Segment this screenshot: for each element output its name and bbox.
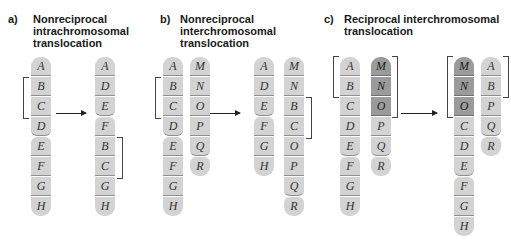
segment-c: C [454,117,474,136]
segment-r: R [284,197,304,216]
bracket-c-before-1 [333,56,339,98]
segment-f: F [340,157,360,176]
arrow-b [210,113,240,114]
segment-h: H [31,197,51,216]
chromosome-b-before-2: MNOPQR [190,57,210,177]
segment-g: G [454,197,474,216]
segment-e: E [454,157,474,176]
segment-q: Q [284,177,304,196]
segment-e: E [163,137,183,156]
segment-n: N [371,77,391,96]
chromosome-c-after-1: MNOCDEFGH [454,57,474,237]
segment-h: H [454,217,474,236]
segment-a: A [163,57,183,76]
segment-p: P [371,117,391,136]
segment-a: A [340,57,360,76]
segment-n: N [190,77,210,96]
segment-h: H [95,197,115,216]
segment-r: R [481,137,501,156]
segment-b: B [481,77,501,96]
panel-c-text: Reciprocal interchromosomal translocatio… [344,13,511,37]
segment-c: C [95,157,115,176]
segment-d: D [254,77,274,96]
segment-n: N [454,77,474,96]
bracket-b-after [306,97,312,139]
segment-r: R [371,157,391,176]
segment-o: O [454,97,474,116]
bracket-a-before [23,77,29,119]
segment-b: B [340,77,360,96]
segment-b: B [284,97,304,116]
segment-m: M [371,57,391,76]
segment-e: E [340,137,360,156]
bracket-b-before [155,77,161,119]
panel-b-letter: b) [160,13,170,25]
chromosome-c-before-1: ABCDEFGH [340,57,360,217]
segment-q: Q [481,117,501,136]
segment-d: D [340,117,360,136]
segment-c: C [284,117,304,136]
segment-a: A [254,57,274,76]
panel-a-letter: a) [8,13,18,25]
segment-e: E [31,137,51,156]
segment-d: D [163,117,183,136]
arrow-c [401,113,437,114]
segment-o: O [284,137,304,156]
segment-f: F [31,157,51,176]
segment-c: C [163,97,183,116]
segment-d: D [95,77,115,96]
segment-q: Q [371,137,391,156]
segment-c: C [31,97,51,116]
panel-a-text: Nonreciprocal intrachromosomal transloca… [33,13,153,49]
segment-d: D [31,117,51,136]
chromosome-a-after: ADEFBCGH [95,57,115,217]
segment-c: C [340,97,360,116]
chromosome-b-after-2: MNBCOPQR [284,57,304,217]
segment-h: H [340,197,360,216]
chromosome-a-before: ABCDEFGH [31,57,51,217]
segment-g: G [254,137,274,156]
bracket-c-after-1 [447,56,453,118]
segment-f: F [254,117,274,136]
segment-h: H [163,197,183,216]
segment-a: A [31,57,51,76]
segment-h: H [254,157,274,176]
segment-b: B [163,77,183,96]
segment-g: G [163,177,183,196]
segment-a: A [95,57,115,76]
chromosome-c-before-2: MNOPQR [371,57,391,177]
segment-g: G [95,177,115,196]
segment-m: M [284,57,304,76]
segment-p: P [190,117,210,136]
arrow-a [56,113,86,114]
segment-r: R [190,157,210,176]
chromosome-c-after-2: ABPQR [481,57,501,157]
segment-e: E [254,97,274,116]
bracket-c-after-2 [503,56,509,98]
segment-f: F [454,177,474,196]
segment-f: F [163,157,183,176]
segment-g: G [340,177,360,196]
segment-p: P [481,97,501,116]
segment-o: O [190,97,210,116]
segment-n: N [284,77,304,96]
bracket-c-before-2 [392,56,398,118]
segment-q: Q [190,137,210,156]
segment-b: B [31,77,51,96]
chromosome-b-after-1: ADEFGH [254,57,274,177]
segment-d: D [454,137,474,156]
segment-a: A [481,57,501,76]
panel-c-letter: c) [324,13,334,25]
panel-b-text: Nonreciprocal interchromosomal transloca… [180,13,300,49]
chromosome-b-before-1: ABCDEFGH [163,57,183,217]
segment-m: M [454,57,474,76]
segment-m: M [190,57,210,76]
segment-p: P [284,157,304,176]
segment-b: B [95,137,115,156]
segment-o: O [371,97,391,116]
segment-g: G [31,177,51,196]
bracket-a-after [117,137,123,179]
segment-e: E [95,97,115,116]
segment-f: F [95,117,115,136]
